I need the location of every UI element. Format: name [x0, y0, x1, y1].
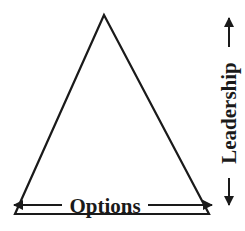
- triangle-shape: [15, 15, 209, 214]
- triangle-diagram: Options Leadership: [0, 0, 245, 231]
- options-label: Options: [69, 194, 140, 218]
- leadership-label: Leadership: [217, 62, 241, 164]
